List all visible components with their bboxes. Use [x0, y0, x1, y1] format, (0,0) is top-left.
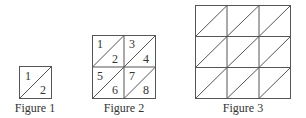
- figure-1-number-1: 1: [25, 69, 31, 83]
- figure-3-caption: Figure 3: [223, 101, 263, 116]
- figure-2-number-3: 3: [129, 37, 135, 51]
- figure-2-number-7: 7: [129, 69, 135, 83]
- figure-2-number-8: 8: [143, 83, 149, 97]
- figure-1-number-2: 2: [40, 83, 46, 97]
- figure-2-number-5: 5: [97, 69, 103, 83]
- figure-2-number-4: 4: [143, 52, 149, 66]
- figure-2-caption: Figure 2: [104, 101, 144, 116]
- figure-2-number-1: 1: [97, 37, 103, 51]
- figure-1-caption: Figure 1: [15, 101, 55, 116]
- figure-2-number-2: 2: [112, 52, 118, 66]
- figure-3-grid: [196, 6, 291, 99]
- figure-2-number-6: 6: [112, 83, 118, 97]
